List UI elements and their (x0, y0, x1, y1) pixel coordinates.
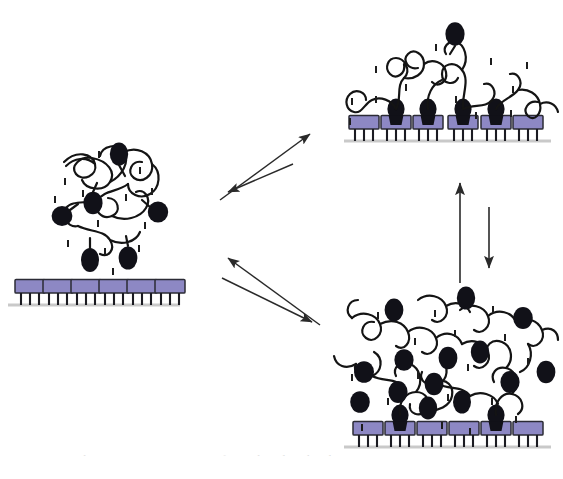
ligand (445, 22, 464, 46)
ligand (148, 201, 168, 222)
ligand (119, 246, 138, 269)
ligand-group-dilute (445, 22, 464, 46)
ligand (500, 371, 519, 393)
figure-caption-row: Figure 17. Schematic representation of a… (0, 455, 563, 479)
ligand (425, 373, 444, 395)
ligand (537, 361, 556, 383)
ligand (350, 391, 370, 413)
ligand (388, 381, 407, 403)
ligand (52, 206, 73, 226)
ligand (471, 341, 489, 364)
diagram-canvas (0, 0, 563, 479)
ligand (110, 142, 128, 165)
ligand (439, 347, 458, 369)
figure-caption: Figure 17. Schematic representation of a… (8, 455, 556, 468)
ligand (419, 397, 437, 420)
ligand (81, 248, 99, 272)
ligand (453, 390, 471, 413)
ligand (354, 361, 374, 383)
ligand (385, 299, 404, 322)
figure-root: Figure 17. Schematic representation of a… (0, 0, 563, 479)
ligand (394, 349, 413, 371)
ligand (83, 192, 102, 214)
ligand (457, 286, 475, 309)
ligand (513, 307, 533, 329)
